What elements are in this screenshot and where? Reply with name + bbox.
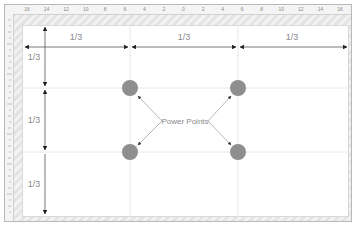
power-point-top-left bbox=[122, 80, 138, 96]
column-label-1: 1/3 bbox=[70, 32, 83, 42]
column-label-2: 1/3 bbox=[178, 32, 191, 42]
power-points-label: Power Points bbox=[161, 117, 208, 126]
row-label-3: 1/3 bbox=[28, 179, 41, 189]
power-point-bottom-left bbox=[122, 144, 138, 160]
column-label-3: 1/3 bbox=[286, 32, 299, 42]
row-label-1: 1/3 bbox=[28, 52, 41, 62]
power-point-bottom-right bbox=[230, 144, 246, 160]
power-point-top-right bbox=[230, 80, 246, 96]
row-label-2: 1/3 bbox=[28, 115, 41, 125]
